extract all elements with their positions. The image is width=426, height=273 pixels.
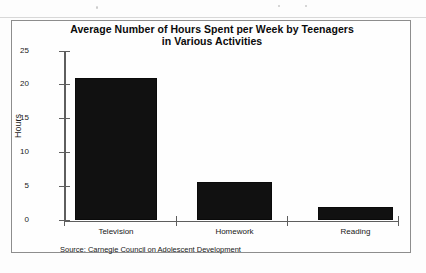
x-axis-tick — [64, 216, 65, 226]
y-axis-tick-label: 15 — [7, 114, 29, 122]
y-axis-tick — [59, 84, 70, 85]
scan-artifact-line — [0, 17, 426, 18]
y-axis-tick — [59, 118, 70, 119]
plot-area: Hours 0 5 10 15 20 25 Televisi — [12, 21, 412, 254]
scan-speck — [96, 6, 98, 9]
x-axis-label-television: Television — [75, 227, 157, 236]
x-axis-tick — [287, 216, 288, 226]
figure-page: Average Number of Hours Spent per Week b… — [0, 0, 426, 273]
y-axis-tick — [59, 152, 70, 153]
x-axis-tick — [398, 216, 399, 226]
x-axis-tick — [176, 216, 177, 226]
y-axis-tick-label: 10 — [7, 148, 29, 156]
y-axis-tick-label: 0 — [7, 216, 29, 224]
bar-homework — [197, 182, 272, 221]
bar-television — [75, 78, 157, 221]
x-axis-label-reading: Reading — [318, 227, 393, 236]
source-note: Source: Carnegie Council on Adolescent D… — [60, 245, 241, 254]
scan-speck — [278, 5, 280, 7]
scan-speck — [305, 5, 307, 7]
y-axis-tick — [59, 51, 70, 52]
x-axis-line — [64, 221, 399, 223]
x-axis-label-homework: Homework — [197, 227, 272, 236]
y-axis-line — [64, 51, 66, 221]
bar-reading — [318, 207, 393, 221]
chart-frame: Average Number of Hours Spent per Week b… — [11, 20, 411, 253]
y-axis-tick — [59, 186, 70, 187]
y-axis-tick-label: 25 — [7, 47, 29, 55]
y-axis-tick-label: 20 — [7, 80, 29, 88]
y-axis-tick-label: 5 — [7, 182, 29, 190]
